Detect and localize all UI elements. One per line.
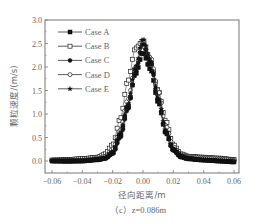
x-tick-label: 0.02 — [166, 177, 180, 186]
y-axis-label: 颗粒速度/(m/s) — [9, 65, 19, 126]
x-tick-label: −0.02 — [103, 177, 122, 186]
series-case-a — [50, 52, 236, 164]
series-case-b — [50, 39, 236, 162]
legend-label: Case C — [85, 55, 110, 65]
legend-label: Case E — [85, 84, 109, 94]
y-tick-label: 2.0 — [32, 63, 42, 72]
y-tick-label: 3.0 — [32, 16, 42, 25]
legend-label: Case A — [85, 27, 110, 37]
legend-item: Case D — [58, 70, 110, 80]
x-tick-label: −0.04 — [73, 177, 92, 186]
x-tick-label: 0.06 — [227, 177, 241, 186]
series-case-d — [50, 44, 236, 162]
legend-label: Case B — [85, 41, 110, 51]
y-tick-label: 1.5 — [32, 87, 42, 96]
y-tick-label: 2.5 — [32, 40, 42, 49]
x-tick-label: −0.06 — [43, 177, 62, 186]
legend-item: Case B — [58, 41, 110, 51]
y-tick-label: 0.0 — [32, 157, 42, 166]
chart: 0.00.51.01.52.02.53.0−0.06−0.04−0.020.00… — [0, 0, 254, 224]
x-axis-label: 径向距离/m — [118, 190, 165, 200]
x-tick-label: 0.04 — [197, 177, 211, 186]
y-tick-label: 1.0 — [32, 110, 42, 119]
y-tick-label: 0.5 — [32, 134, 42, 143]
legend-item: Case E — [58, 84, 109, 94]
legend-item: Case C — [58, 55, 110, 65]
legend: Case ACase BCase CCase DCase E — [58, 27, 110, 94]
figure-caption: （c）z=0.086m — [110, 205, 166, 215]
x-tick-label: 0.00 — [136, 177, 150, 186]
legend-label: Case D — [85, 70, 110, 80]
legend-item: Case A — [58, 27, 110, 37]
